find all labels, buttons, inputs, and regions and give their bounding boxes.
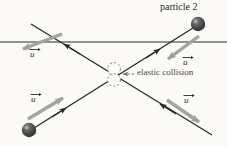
physics-collision-diagram: particle 2 elastic collision u u xyxy=(0,0,227,146)
velocity-label-top-left-text: u xyxy=(30,49,35,59)
particle-1-sphere xyxy=(22,123,38,137)
velocity-label-top-left: u xyxy=(30,50,35,59)
trajectory-line-descending xyxy=(31,24,212,135)
velocity-label-bottom-left-text: u xyxy=(31,94,36,104)
particle-2-label: particle 2 xyxy=(160,2,197,12)
velocity-label-bottom-right: u xyxy=(184,96,189,105)
particle-2-sphere xyxy=(191,17,207,31)
velocity-label-bottom-left: u xyxy=(31,95,36,104)
velocity-arrow-top-right xyxy=(168,36,199,59)
velocity-label-top-right-text: u xyxy=(183,57,188,67)
velocity-label-top-right: u xyxy=(183,58,188,67)
velocity-label-bottom-right-text: u xyxy=(184,95,189,105)
elastic-collision-label: elastic collision xyxy=(137,68,193,77)
